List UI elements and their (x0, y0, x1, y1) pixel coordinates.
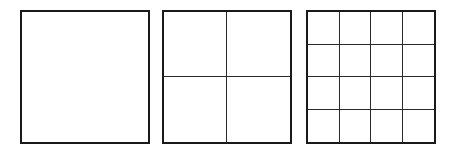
grid-cell (308, 45, 340, 78)
grid-cell (227, 77, 290, 142)
grid-cell (371, 110, 403, 143)
grid-cell (371, 77, 403, 110)
grid-cell (340, 45, 372, 78)
grid-cell (340, 12, 372, 45)
grid-cell (308, 110, 340, 143)
grid-2x2 (164, 12, 290, 142)
grid-cell (164, 77, 227, 142)
grid-cell (227, 12, 290, 77)
grid-cell (164, 12, 227, 77)
grid-cell (403, 110, 435, 143)
grid-cell (340, 77, 372, 110)
grid-cell (308, 12, 340, 45)
grid-cell (371, 45, 403, 78)
square-2x2 (162, 10, 292, 144)
grid-cell (403, 77, 435, 110)
grid-cell (403, 45, 435, 78)
grid-cell (340, 110, 372, 143)
grid-cell (371, 12, 403, 45)
square-1x1 (20, 10, 150, 144)
grid-4x4 (308, 12, 434, 142)
square-4x4 (306, 10, 436, 144)
grid-cell (308, 77, 340, 110)
grid-cell (403, 12, 435, 45)
